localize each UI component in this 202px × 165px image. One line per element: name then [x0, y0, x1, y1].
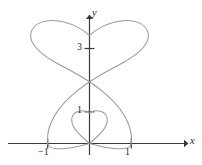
x-axis-arrow-icon — [184, 140, 189, 147]
x-tick-label-1: 1 — [125, 147, 130, 157]
y-tick-label-1: 1 — [77, 105, 82, 115]
plot-canvas — [0, 0, 202, 165]
y-axis-label: y — [92, 8, 97, 19]
x-axis-label: x — [190, 136, 195, 147]
x-tick-label-minus-1: −1 — [38, 147, 49, 157]
polar-plot-figure: y x 3 1 −1 1 — [0, 0, 202, 165]
y-tick-label-3: 3 — [77, 42, 82, 52]
